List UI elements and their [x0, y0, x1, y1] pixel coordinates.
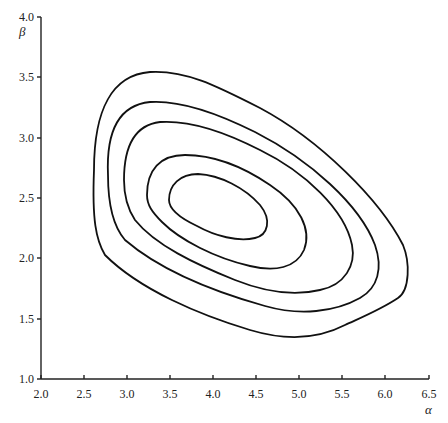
- svg-text:4.0: 4.0: [206, 387, 221, 401]
- y-axis-label: β: [18, 24, 26, 39]
- svg-text:3.5: 3.5: [19, 70, 34, 84]
- svg-text:5.0: 5.0: [292, 387, 307, 401]
- svg-text:6.5: 6.5: [422, 387, 437, 401]
- contour-chart: 1.0 1.5 2.0 2.5 3.0 3.5 4.0 β 2.0 2.5 3.…: [0, 0, 448, 423]
- x-tick-labels: 2.0 2.5 3.0 3.5 4.0 4.5 5.0 5.5 6.0 6.5: [34, 387, 437, 401]
- svg-text:2.5: 2.5: [19, 191, 34, 205]
- svg-text:3.5: 3.5: [163, 387, 178, 401]
- svg-text:4.0: 4.0: [19, 10, 34, 24]
- y-tick-labels: 1.0 1.5 2.0 2.5 3.0 3.5 4.0: [19, 10, 34, 386]
- svg-text:1.5: 1.5: [19, 312, 34, 326]
- contour-level-2: [147, 155, 306, 269]
- svg-text:3.0: 3.0: [19, 131, 34, 145]
- contour-level-1: [169, 174, 267, 239]
- svg-text:6.0: 6.0: [378, 387, 393, 401]
- svg-text:5.5: 5.5: [335, 387, 350, 401]
- svg-text:4.5: 4.5: [249, 387, 264, 401]
- contour-level-4: [108, 102, 379, 312]
- svg-text:2.0: 2.0: [19, 251, 34, 265]
- svg-text:1.0: 1.0: [19, 372, 34, 386]
- x-axis-label: α: [425, 402, 433, 417]
- svg-text:3.0: 3.0: [120, 387, 135, 401]
- svg-text:2.5: 2.5: [77, 387, 92, 401]
- svg-text:2.0: 2.0: [34, 387, 49, 401]
